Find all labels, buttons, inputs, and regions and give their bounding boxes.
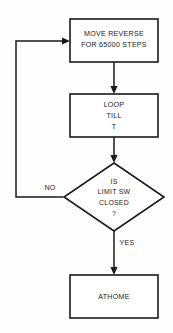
no-feedback-path bbox=[16, 41, 66, 197]
loop-to-decision-arrowhead bbox=[110, 155, 117, 163]
yes-arrowhead bbox=[110, 267, 117, 275]
loop-till-t-line-2: TILL bbox=[106, 112, 121, 120]
no-feedback-arrowhead bbox=[62, 37, 70, 44]
flowchart-svg: NO MOVE REVERSE FOR 65000 STEPS LOOP TIL… bbox=[0, 0, 173, 333]
node-athome[interactable]: ATHOME bbox=[70, 275, 158, 318]
edge-label-yes: YES bbox=[120, 239, 135, 247]
decision-line-4: ? bbox=[112, 210, 116, 217]
move-to-loop-arrowhead bbox=[110, 86, 117, 94]
loop-till-t-line-1: LOOP bbox=[104, 101, 125, 109]
move-reverse-line-2: FOR 65000 STEPS bbox=[81, 41, 147, 49]
node-limit-sw-decision[interactable]: IS LIMIT SW CLOSED ? bbox=[64, 163, 164, 231]
decision-line-1: IS bbox=[110, 178, 117, 185]
node-loop-till-t[interactable]: LOOP TILL T bbox=[70, 94, 158, 137]
node-move-reverse[interactable]: MOVE REVERSE FOR 65000 STEPS bbox=[70, 19, 158, 62]
move-reverse-line-1: MOVE REVERSE bbox=[84, 30, 144, 38]
loop-till-t-line-3: T bbox=[112, 123, 117, 131]
edge-move-to-loop bbox=[110, 62, 117, 94]
edge-label-no: NO bbox=[44, 184, 55, 192]
edge-loop-to-decision bbox=[110, 137, 117, 163]
limit-sw-decision-diamond[interactable] bbox=[64, 163, 164, 231]
edge-decision-yes-athome: YES bbox=[110, 231, 134, 275]
flowchart-canvas: NO MOVE REVERSE FOR 65000 STEPS LOOP TIL… bbox=[0, 0, 173, 333]
decision-line-2: LIMIT SW bbox=[98, 188, 131, 195]
edge-decision-no-feedback: NO bbox=[16, 37, 70, 197]
decision-line-3: CLOSED bbox=[99, 199, 129, 206]
athome-label: ATHOME bbox=[98, 293, 129, 301]
